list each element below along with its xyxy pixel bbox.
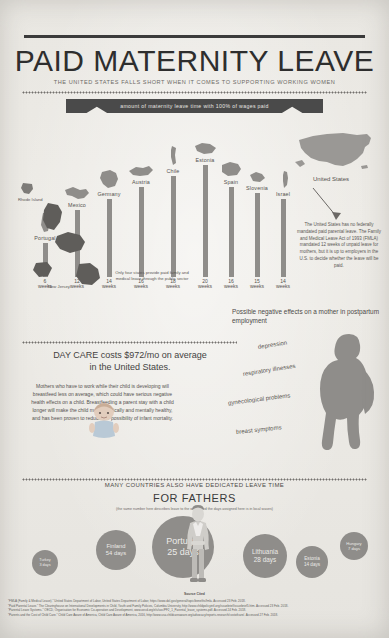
bubble-days: 14 days [304, 562, 320, 568]
daycare-headline: DAY CARE costs $972/mo on average in the… [20, 349, 240, 373]
state-map-california [74, 262, 104, 292]
pregnant-woman-silhouette [305, 330, 383, 454]
chart-column-israel: Israel14weeks [268, 169, 298, 291]
country-bar [229, 187, 234, 277]
states-paid-leave-note: Only four states provide paid family and… [112, 270, 192, 282]
sources-heading: Source Cited [0, 592, 389, 596]
divider-dotted-middle [22, 341, 237, 344]
fathers-headline: MANY COUNTRIES ALSO HAVE DEDICATED LEAVE… [0, 482, 389, 488]
header-rule [24, 35, 365, 38]
country-weeks-value: 14weeks [268, 279, 298, 291]
father-bubble-finland: Finland54 days [96, 530, 136, 570]
bubble-country: Lithuania [252, 548, 278, 556]
effects-title: Possible negative effects on a mother in… [232, 308, 382, 326]
effect-item-gynecological: gynecological problems [228, 392, 291, 406]
country-map-icon-austria [126, 162, 156, 178]
baby-illustration [85, 400, 123, 444]
divider-dotted-top [22, 91, 367, 94]
country-map-icon-estonia [190, 140, 220, 156]
infographic-page: PAID MATERNITY LEAVE THE UNITED STATES F… [0, 0, 389, 638]
sources-list: "FMLA (Family & Medical Leave)." United … [8, 599, 381, 617]
country-label: Israel [268, 191, 298, 197]
father-bubble-hungary: Hungary7 days [340, 532, 368, 560]
united-states-note: The United States has no federally manda… [295, 222, 383, 269]
chart-banner: amount of maternity leave time with 100%… [66, 99, 323, 113]
effect-item-respiratory: respiratory illnesses [243, 363, 296, 377]
country-label: Chile [158, 168, 188, 174]
maternity-leave-bar-chart: Portugal6weeksMexico12weeksGermany14week… [0, 118, 389, 308]
father-silhouette [181, 505, 215, 587]
chart-banner-label: amount of maternity leave time with 100%… [120, 103, 269, 109]
daycare-line-1: DAY CARE costs $972/mo on average [20, 349, 240, 361]
effect-item-depression: depression [258, 339, 288, 350]
country-bar [203, 165, 208, 277]
page-subtitle: THE UNITED STATES FALLS SHORT WHEN IT CO… [0, 79, 389, 85]
daycare-line-2: in the United States. [20, 361, 240, 373]
united-states-label: United States [288, 176, 374, 182]
fathers-title: FOR FATHERS [0, 492, 389, 504]
bubble-days: 28 days [254, 556, 276, 564]
state-map-new-york [54, 230, 88, 260]
country-bar [281, 199, 286, 277]
state-label-rhode-island: Rhode Island [18, 197, 43, 202]
state-map-small-a [32, 260, 54, 284]
page-title: PAID MATERNITY LEAVE [0, 44, 389, 78]
country-map-icon-chile [158, 145, 188, 167]
country-bar [255, 193, 260, 277]
source-line: "Parents and the Cost of Child Care." Ch… [8, 613, 381, 618]
united-states-map-icon [293, 128, 375, 178]
bubble-days: 7 days [348, 546, 360, 551]
father-bubble-lithuania: Lithuania28 days [243, 534, 287, 578]
bubble-days: 3 days [39, 563, 50, 568]
state-label-secondary: New Jersey [48, 284, 70, 289]
effect-item-breast: breast symptoms [236, 424, 282, 435]
divider-dotted-fathers [22, 478, 367, 481]
father-bubble-turkey: Turkey3 days [32, 550, 58, 576]
us-states-group: Rhode Island New [18, 178, 193, 308]
bubble-days: 54 days [106, 550, 126, 557]
bubble-country: Finland [106, 543, 125, 550]
father-bubble-estonia: Estonia14 days [296, 546, 328, 578]
